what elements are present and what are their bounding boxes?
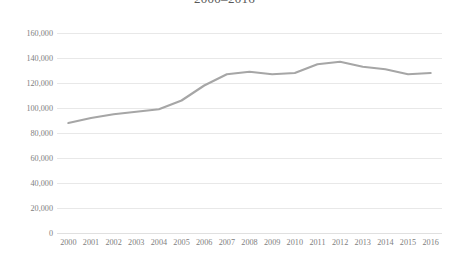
gridline: [57, 233, 442, 234]
line-chart: 2000–2016 020,00040,00060,00080,000100,0…: [0, 0, 449, 258]
y-axis-tick-label: 160,000: [26, 29, 53, 38]
x-axis-tick-label: 2012: [332, 239, 348, 247]
y-axis-tick-label: 0: [49, 229, 53, 238]
series-line: [68, 62, 430, 123]
x-axis-tick-label: 2004: [151, 239, 167, 247]
x-axis-tick-label: 2014: [377, 239, 393, 247]
plot-area: [57, 33, 442, 233]
x-axis-tick-label: 2007: [219, 239, 235, 247]
x-axis-tick-label: 2015: [400, 239, 416, 247]
y-axis-tick-label: 60,000: [30, 154, 53, 163]
x-axis-tick-label: 2006: [196, 239, 212, 247]
y-axis-tick-label: 120,000: [26, 79, 53, 88]
x-axis-tick-label: 2000: [60, 239, 76, 247]
x-axis-tick-label: 2010: [287, 239, 303, 247]
chart-title: 2000–2016: [0, 0, 449, 7]
x-axis-tick-label: 2008: [241, 239, 257, 247]
x-axis-tick-label: 2002: [105, 239, 121, 247]
series-line-group: [57, 33, 442, 233]
y-axis-tick-label: 140,000: [26, 54, 53, 63]
x-axis-tick-label: 2003: [128, 239, 144, 247]
x-axis: 2000200120022003200420052006200720082009…: [57, 239, 442, 253]
y-axis-tick-label: 80,000: [30, 129, 53, 138]
x-axis-tick-label: 2009: [264, 239, 280, 247]
x-axis-tick-label: 2005: [173, 239, 189, 247]
x-axis-tick-label: 2011: [309, 239, 325, 247]
x-axis-tick-label: 2016: [422, 239, 438, 247]
y-axis-tick-label: 100,000: [26, 104, 53, 113]
y-axis-tick-label: 40,000: [30, 179, 53, 188]
y-axis-tick-label: 20,000: [30, 204, 53, 213]
x-axis-tick-label: 2013: [355, 239, 371, 247]
x-axis-tick-label: 2001: [83, 239, 99, 247]
